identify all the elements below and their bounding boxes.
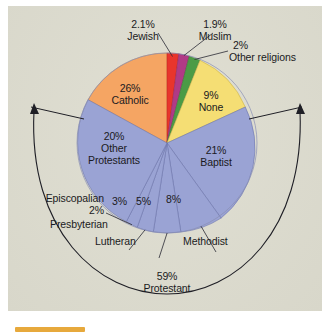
label-none-name: None xyxy=(183,101,239,113)
label-presbyterian-pct: 3% xyxy=(112,195,127,207)
brace-tangent-left xyxy=(31,107,84,119)
label-muslim-pct: 1.9% xyxy=(180,18,250,30)
label-lutheran-pct: 5% xyxy=(136,195,151,207)
label-catholic-pct: 26% xyxy=(88,82,172,94)
label-jewish-name: Jewish xyxy=(108,30,178,42)
label-baptist-name: Baptist xyxy=(180,156,252,168)
label-catholic: 26% Catholic xyxy=(88,82,172,106)
label-protestant-total-name: Protestant xyxy=(125,282,209,294)
label-episcopalian: Episcopalian 2% xyxy=(22,192,104,216)
label-other-protestants-name-1: Other xyxy=(70,142,158,154)
label-none: 9% None xyxy=(183,89,239,113)
label-protestant-total-pct: 59% xyxy=(125,270,209,282)
label-episcopalian-name: Episcopalian xyxy=(22,192,104,204)
leader-line-other-religions xyxy=(195,51,229,60)
label-presbyterian-name: Presbyterian xyxy=(50,218,108,230)
figure-page: 2.1% Jewish 1.9% Muslim 2% Other religio… xyxy=(0,0,330,336)
label-methodist-name: Methodist xyxy=(183,235,228,247)
chart-panel: 2.1% Jewish 1.9% Muslim 2% Other religio… xyxy=(8,6,322,311)
caption-accent-bar xyxy=(15,327,85,332)
brace-tangent-right xyxy=(249,107,302,119)
label-other-religions: 2% Other religions xyxy=(229,39,296,63)
label-other-protestants-pct: 20% xyxy=(70,130,158,142)
leader-line-lutheran xyxy=(159,233,167,258)
label-baptist: 21% Baptist xyxy=(180,144,252,168)
label-none-pct: 9% xyxy=(183,89,239,101)
label-other-protestants-name-2: Protestants xyxy=(70,154,158,166)
label-catholic-name: Catholic xyxy=(88,94,172,106)
label-jewish-pct: 2.1% xyxy=(108,18,178,30)
label-other-religions-name: Other religions xyxy=(229,51,296,63)
label-lutheran-name: Lutheran xyxy=(95,235,136,247)
label-other-protestants: 20% Other Protestants xyxy=(70,130,158,166)
label-baptist-pct: 21% xyxy=(180,144,252,156)
label-other-religions-pct: 2% xyxy=(233,39,296,51)
label-protestant-total: 59% Protestant xyxy=(125,270,209,294)
label-episcopalian-pct: 2% xyxy=(22,204,104,216)
label-methodist-pct: 8% xyxy=(166,193,181,205)
label-jewish: 2.1% Jewish xyxy=(108,18,178,42)
